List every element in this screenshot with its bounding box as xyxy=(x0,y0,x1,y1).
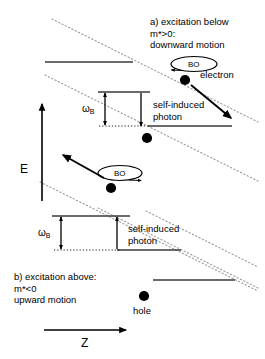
bo-loop-mid-arrow xyxy=(129,180,141,181)
hole-motion-arrow-shaft xyxy=(63,155,104,178)
band-edge-upper-2 xyxy=(45,75,258,181)
axis-energy-label: E xyxy=(20,164,28,176)
panel-a-caption-line2: m*>0: xyxy=(150,28,175,39)
figure-canvas: a) excitation belowm*>0:downward motion … xyxy=(0,0,265,359)
photon-label-top-line2: photon xyxy=(153,111,182,122)
panel-b-caption: b) excitation above:m*<0upward motion xyxy=(14,271,96,306)
hole-label: hole xyxy=(133,305,151,317)
omega-b-label-top-subscript: B xyxy=(90,108,95,115)
axis-position-label: Z xyxy=(81,338,88,350)
band-edge-lower-2 xyxy=(98,208,258,288)
panel-a-caption-line1: a) excitation below xyxy=(150,16,229,27)
photon-label-top: self-inducedphoton xyxy=(153,99,204,122)
omega-b-label-top: ωB xyxy=(82,103,94,117)
photon-label-bottom: self-inducedphoton xyxy=(128,223,179,246)
omega-b-label-bottom-symbol: ω xyxy=(38,227,46,238)
panel-a-caption: a) excitation belowm*>0:downward motion xyxy=(150,16,229,51)
photon-label-bottom-line2: photon xyxy=(128,235,157,246)
hole-dot-middle xyxy=(106,183,116,193)
photon-label-bottom-line1: self-induced xyxy=(128,223,179,234)
electron-dot xyxy=(180,75,190,85)
electron-label: electron xyxy=(200,69,234,81)
bo-label-mid: BO xyxy=(114,168,126,180)
panel-a-caption-line3: downward motion xyxy=(150,39,224,50)
bo-loop-top-arrow xyxy=(172,70,184,71)
panel-b-caption-line1: b) excitation above: xyxy=(14,271,96,282)
bo-label-top: BO xyxy=(188,59,200,71)
omega-b-label-bottom-subscript: B xyxy=(46,232,51,239)
electron-dot-lower xyxy=(142,133,152,143)
hole-motion-arrow xyxy=(63,155,104,178)
photon-label-top-line1: self-induced xyxy=(153,99,204,110)
omega-b-label-top-symbol: ω xyxy=(82,103,90,114)
panel-b-caption-line3: upward motion xyxy=(14,294,76,305)
hole-dot xyxy=(139,291,149,301)
panel-b-caption-line2: m*<0 xyxy=(14,283,36,294)
omega-b-label-bottom: ωB xyxy=(38,227,50,241)
